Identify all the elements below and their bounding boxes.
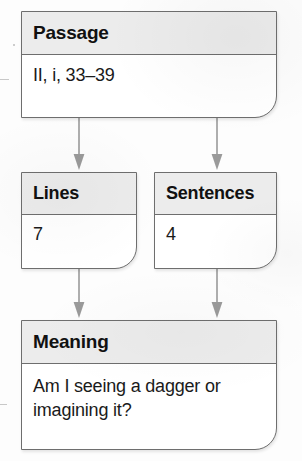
node-passage: Passage II, i, 33–39 bbox=[21, 11, 277, 118]
arrow-sentences-to-meaning bbox=[209, 269, 225, 320]
scan-margin-mark-left-top bbox=[0, 79, 9, 80]
node-lines-header: Lines bbox=[22, 173, 136, 215]
arrow-lines-to-meaning bbox=[71, 269, 87, 320]
node-lines-body: 7 bbox=[22, 215, 136, 245]
scan-speck bbox=[13, 44, 15, 46]
node-lines: Lines 7 bbox=[21, 172, 137, 269]
node-passage-body: II, i, 33–39 bbox=[22, 55, 276, 86]
node-sentences-header: Sentences bbox=[155, 173, 276, 215]
node-meaning-header: Meaning bbox=[22, 321, 276, 364]
arrow-passage-to-sentences bbox=[209, 118, 225, 172]
node-sentences: Sentences 4 bbox=[154, 172, 277, 269]
node-meaning: Meaning Am I seeing a dagger or imaginin… bbox=[21, 320, 277, 450]
scan-margin-mark-left-bottom bbox=[0, 404, 7, 405]
arrow-passage-to-lines bbox=[71, 118, 87, 172]
node-meaning-body: Am I seeing a dagger or imagining it? bbox=[22, 364, 276, 422]
node-sentences-body: 4 bbox=[155, 215, 276, 245]
node-passage-header: Passage bbox=[22, 12, 276, 55]
flowchart-canvas: Passage II, i, 33–39 Lines 7 Sentences 4 bbox=[0, 0, 302, 461]
